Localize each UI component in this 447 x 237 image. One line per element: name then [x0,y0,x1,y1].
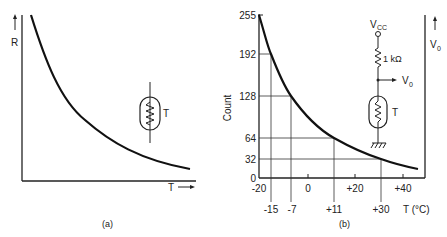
caption-a: (a) [102,219,113,229]
x-axis-label: T [168,182,174,193]
x-tick-plus20: +20 [347,183,364,194]
resistance-curve [31,15,190,169]
panel-a: R T T (a) [11,14,196,229]
ground-icon [371,143,386,148]
x-tick-plus11: +11 [326,204,343,215]
figure: R T T (a) 255 192 128 64 32 0 Count [0,0,447,237]
right-axis-sub: 0 [437,45,441,52]
y-tick-255: 255 [239,10,256,21]
x-tick-minus20: -20 [252,183,267,194]
x-tick-minus7: -7 [288,204,297,215]
y-axis-label: R [11,37,18,48]
resistor-label: 1 kΩ [383,54,402,64]
caption-b: (b) [339,219,350,229]
thermistor-icon [140,82,160,143]
thermistor-label: T [392,107,398,118]
vcc-sub: CC [377,24,387,31]
x-tick-minus15: -15 [264,204,279,215]
resistor-icon [375,48,381,67]
y-tick-192: 192 [239,49,256,60]
count-curve [259,15,418,169]
vo-arrowhead-icon [433,16,437,21]
y-tick-32: 32 [245,154,257,165]
divider-circuit: V CC 1 kΩ V 0 T [369,19,413,148]
x-tick-plus40: +40 [395,183,412,194]
vo-sub: 0 [409,81,413,88]
vcc-terminal-icon [376,32,381,37]
x-tick-0: 0 [305,183,311,194]
panel-b: 255 192 128 64 32 0 Count -20 0 +20 +40 [222,10,441,229]
x-axis-label: T (°C) [403,204,430,215]
x-tick-plus30: +30 [373,204,390,215]
r-arrowhead-icon [13,14,17,19]
thermistor-label: T [163,108,169,119]
vo-label: V [402,75,409,86]
t-arrowhead-icon [190,185,195,189]
right-axis-label: V [430,39,437,50]
y-axis-label: Count [222,94,233,121]
vcc-label: V [370,19,377,30]
y-tick-128: 128 [239,91,256,102]
y-tick-64: 64 [245,133,257,144]
